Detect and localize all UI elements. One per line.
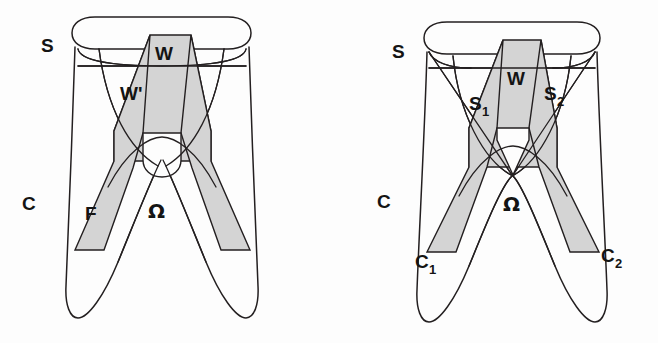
label-w: W (507, 68, 525, 89)
label-s1-base: S (469, 93, 482, 114)
right-diagram-svg: S C W S 1 S 2 C 1 C 2 Ω (329, 0, 658, 343)
label-c2-sub: 2 (615, 256, 622, 271)
label-c1-sub: 1 (429, 262, 436, 277)
left-diagram: S C W W' F Ω (0, 0, 329, 343)
label-s: S (392, 41, 405, 62)
label-omega: Ω (503, 192, 520, 216)
right-shaded-arm-s1 (427, 40, 503, 252)
label-c2: C 2 (601, 245, 622, 271)
left-diagram-svg: S C W W' F Ω (0, 0, 329, 343)
label-s: S (41, 35, 54, 56)
label-c1-base: C (415, 251, 429, 272)
right-diagram: S C W S 1 S 2 C 1 C 2 Ω (329, 0, 658, 343)
label-w-prime: W' (120, 83, 142, 104)
label-c: C (377, 191, 391, 212)
label-s2-base: S (544, 83, 557, 104)
label-w: W (155, 43, 173, 64)
right-shaded-arm-s2 (529, 40, 599, 252)
label-omega: Ω (148, 199, 165, 223)
figure-root: S C W W' F Ω (0, 0, 658, 343)
left-notch-outline (143, 133, 181, 177)
label-s2-sub: 2 (557, 94, 564, 109)
label-f: F (85, 203, 97, 224)
label-c: C (22, 193, 36, 214)
label-s1-sub: 1 (482, 104, 489, 119)
label-c2-base: C (601, 245, 615, 266)
